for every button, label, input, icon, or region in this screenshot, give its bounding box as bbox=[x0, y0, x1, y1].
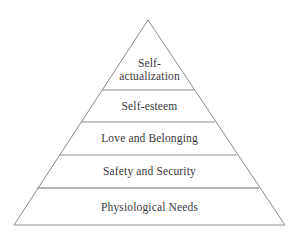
pyramid-diagram: Self- actualization Self-esteem Love and… bbox=[0, 0, 299, 241]
pyramid-outline-svg bbox=[0, 0, 299, 241]
